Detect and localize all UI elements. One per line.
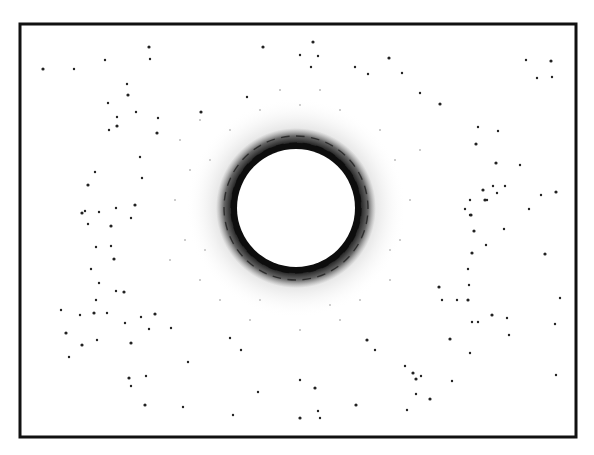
diffraction-spot (299, 379, 301, 381)
diffraction-spot (506, 317, 508, 319)
diffraction-spot (496, 192, 498, 194)
diffraction-spot (116, 116, 118, 118)
diffraction-spot (108, 129, 110, 131)
diffraction-spot (64, 331, 67, 334)
diffraction-figure (0, 0, 594, 455)
diffraction-spot (554, 323, 556, 325)
diffraction-spot (182, 406, 184, 408)
diffraction-spot (122, 290, 125, 293)
diffraction-spot (130, 217, 132, 219)
diffraction-spot (298, 416, 301, 419)
diffraction-spot (133, 203, 136, 206)
diffraction-spot (469, 199, 471, 201)
diffraction-spot (497, 130, 499, 132)
diffraction-spot (87, 223, 89, 225)
diffraction-spot (257, 391, 259, 393)
diffraction-spot (525, 59, 527, 61)
diffraction-spot (124, 322, 126, 324)
diffraction-spot (92, 311, 95, 314)
diffraction-spot (157, 117, 159, 119)
diffraction-spot (106, 312, 108, 314)
diffraction-spot (130, 385, 132, 387)
diffraction-spot (471, 321, 473, 323)
faint-spot (409, 199, 411, 201)
ring-streak (287, 280, 296, 281)
diffraction-spot (469, 352, 471, 354)
diffraction-spot (428, 397, 431, 400)
faint-spot (419, 149, 421, 151)
diffraction-spot (467, 268, 469, 270)
diffraction-spot (98, 211, 100, 213)
diffraction-spot (79, 314, 81, 316)
diffraction-spot (129, 341, 132, 344)
diffraction-spot (80, 343, 83, 346)
diffraction-spot (147, 45, 150, 48)
faint-spot (169, 259, 171, 261)
diffraction-spot (126, 93, 129, 96)
faint-spot (379, 129, 381, 131)
diffraction-spot (155, 131, 158, 134)
diffraction-spot (115, 124, 118, 127)
diffraction-spot (540, 194, 542, 196)
diffraction-spot (472, 229, 475, 232)
diffraction-spot (420, 375, 422, 377)
diffraction-spot (135, 111, 137, 113)
diffraction-spot (468, 284, 470, 286)
diffraction-spot (90, 268, 92, 270)
faint-spot (199, 279, 201, 281)
diffraction-spot (549, 59, 552, 62)
diffraction-spot (354, 403, 357, 406)
diffraction-spot (104, 59, 106, 61)
diffraction-pattern-image (0, 0, 594, 455)
diffraction-spot (504, 185, 506, 187)
diffraction-spot (466, 298, 469, 301)
faint-spot (219, 299, 221, 301)
diffraction-spot (404, 365, 406, 367)
diffraction-spot (554, 190, 557, 193)
diffraction-spot (240, 349, 242, 351)
faint-spot (319, 89, 321, 91)
diffraction-spot (80, 211, 83, 214)
diffraction-spot (419, 92, 421, 94)
diffraction-spot (492, 185, 494, 187)
diffraction-spot (170, 327, 172, 329)
diffraction-spot (319, 417, 321, 419)
diffraction-spot (451, 380, 453, 382)
diffraction-spot (84, 210, 86, 212)
diffraction-spot (96, 339, 98, 341)
diffraction-spot (469, 214, 471, 216)
central-hole (237, 149, 355, 267)
diffraction-spot (148, 328, 150, 330)
diffraction-spot (115, 290, 117, 292)
diffraction-spot (299, 54, 301, 56)
diffraction-spot (246, 96, 248, 98)
diffraction-spot (406, 409, 408, 411)
diffraction-spot (143, 403, 146, 406)
faint-spot (174, 199, 176, 201)
ring-streak (296, 136, 305, 137)
debye-ring (186, 98, 406, 318)
faint-spot (199, 119, 201, 121)
diffraction-spot (555, 374, 557, 376)
diffraction-spot (115, 207, 117, 209)
diffraction-spot (387, 56, 390, 59)
diffraction-spot (145, 375, 147, 377)
diffraction-spot (317, 55, 319, 57)
diffraction-spot (401, 72, 403, 74)
diffraction-spot (310, 66, 312, 68)
diffraction-spot (317, 410, 319, 412)
diffraction-spot (199, 110, 202, 113)
faint-spot (389, 279, 391, 281)
diffraction-spot (126, 83, 128, 85)
diffraction-spot (365, 338, 368, 341)
diffraction-spot (187, 361, 189, 363)
diffraction-spot (354, 66, 356, 68)
diffraction-spot (438, 102, 441, 105)
diffraction-spot (107, 102, 109, 104)
diffraction-spot (367, 73, 369, 75)
diffraction-spot (311, 40, 314, 43)
diffraction-spot (374, 349, 376, 351)
faint-spot (249, 319, 251, 321)
diffraction-spot (94, 171, 96, 173)
diffraction-spot (437, 285, 440, 288)
